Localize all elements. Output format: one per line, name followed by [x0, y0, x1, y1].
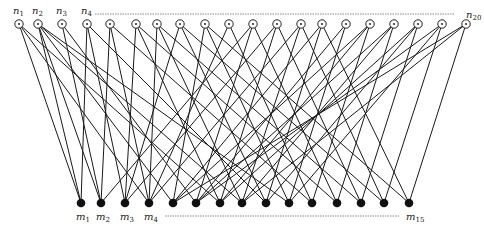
bottom-node-m10 — [285, 199, 294, 208]
top-node-center — [18, 23, 20, 25]
top-node-center — [441, 23, 443, 25]
top-node-center — [86, 23, 88, 25]
edge — [101, 24, 110, 203]
bottom-node-m7 — [216, 199, 225, 208]
bottom-node-m15 — [405, 199, 414, 208]
label-n2: n2 — [32, 5, 43, 18]
edge — [196, 24, 394, 203]
edge — [173, 24, 370, 203]
label-m15: m15 — [406, 211, 424, 224]
top-node-center — [465, 23, 467, 25]
edge — [38, 24, 101, 203]
top-node-center — [252, 23, 254, 25]
label-m4: m4 — [144, 211, 158, 224]
top-node-center — [300, 23, 302, 25]
edge — [157, 24, 361, 203]
top-node-center — [37, 23, 39, 25]
label-n1: n1 — [13, 5, 24, 18]
top-node-center — [369, 23, 371, 25]
edge — [38, 24, 81, 203]
bottom-node-m2 — [97, 199, 106, 208]
label-m1: m1 — [76, 211, 90, 224]
top-node-center — [179, 23, 181, 25]
top-node-center — [276, 23, 278, 25]
bottom-node-m11 — [308, 199, 317, 208]
edge — [361, 24, 418, 203]
bottom-node-m14 — [380, 199, 389, 208]
bottom-node-m5 — [169, 199, 178, 208]
top-node-center — [61, 23, 63, 25]
edge — [125, 24, 136, 203]
bottom-node-m4 — [145, 199, 154, 208]
bottom-node-m8 — [238, 199, 247, 208]
bottom-node-m12 — [333, 199, 342, 208]
edge — [266, 24, 418, 203]
top-node-center — [345, 23, 347, 25]
top-node-center — [417, 23, 419, 25]
bottom-node-m1 — [77, 199, 86, 208]
edge — [289, 24, 442, 203]
top-node-center — [135, 23, 137, 25]
edge — [101, 24, 253, 203]
edge — [125, 24, 277, 203]
label-m2: m2 — [96, 211, 110, 224]
bottom-node-m6 — [192, 199, 201, 208]
top-node-center — [228, 23, 230, 25]
label-m3: m3 — [120, 211, 134, 224]
top-node-center — [321, 23, 323, 25]
edge — [384, 24, 442, 203]
bottom-node-m3 — [121, 199, 130, 208]
edge — [157, 24, 242, 203]
edge — [180, 24, 266, 203]
edge — [266, 24, 322, 203]
label-n4: n4 — [81, 5, 92, 18]
label-n3: n3 — [56, 5, 67, 18]
top-node-center — [109, 23, 111, 25]
top-node-center — [204, 23, 206, 25]
edge — [19, 24, 81, 203]
graph-canvas: n1n2n3n4n20m1m2m3m4m15 — [0, 0, 484, 236]
bottom-node-m9 — [262, 199, 271, 208]
edge — [409, 24, 466, 203]
top-node-center — [393, 23, 395, 25]
bipartite-graph-figure: n1n2n3n4n20m1m2m3m4m15 — [0, 0, 484, 236]
edge — [220, 24, 277, 203]
bottom-node-m13 — [357, 199, 366, 208]
top-node-center — [156, 23, 158, 25]
